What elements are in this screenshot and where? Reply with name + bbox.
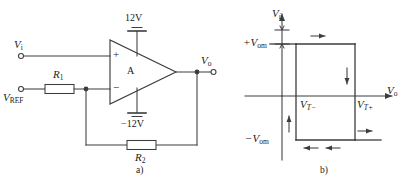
label-vref: VREF <box>3 92 24 104</box>
terminal-vo <box>211 70 216 75</box>
label-vo: Vo <box>201 55 211 67</box>
label-axis-vo: Vo <box>387 85 397 97</box>
label-inverting-input-minus: − <box>113 82 119 93</box>
terminal-vref <box>19 87 24 92</box>
label-noninverting-input-plus: + <box>113 49 119 60</box>
label-threshold-low: VT− <box>300 99 316 111</box>
label-upper-saturation-level: +Vom <box>243 37 267 49</box>
resistor-r2 <box>127 141 156 150</box>
label-threshold-high: VT+ <box>357 99 373 111</box>
resistor-r1 <box>45 85 74 94</box>
terminal-vi <box>19 54 24 59</box>
label-negative-supply: −12V <box>121 119 144 129</box>
label-positive-supply: 12V <box>125 13 142 23</box>
caption-panel-a: a) <box>136 166 143 176</box>
figure-container: Vi VREF Vo R1 R2 12V −12V + − A a) Vi Vo… <box>0 0 419 186</box>
caption-panel-b: b) <box>320 166 328 176</box>
opamp-body <box>110 40 176 104</box>
label-axis-vi: Vi <box>272 8 281 20</box>
label-resistor-r1: R1 <box>53 69 63 81</box>
label-resistor-r2: R2 <box>135 152 145 164</box>
label-opamp-a: A <box>127 66 134 76</box>
figure-drawing-canvas <box>0 0 419 186</box>
label-vi: Vi <box>14 39 23 51</box>
label-lower-saturation-level: −Vom <box>245 133 269 145</box>
